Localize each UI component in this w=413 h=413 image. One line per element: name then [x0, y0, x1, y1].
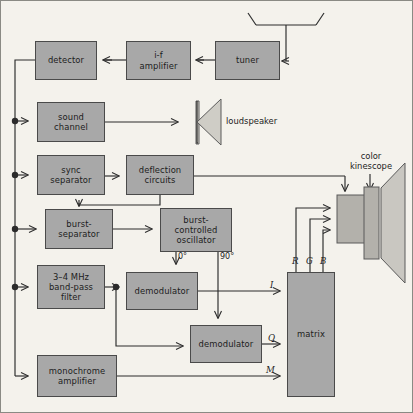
label-phase-90: 90°: [220, 252, 234, 261]
loudspeaker-cone-icon: [196, 99, 221, 145]
block-diagram-canvas: detector i-f amplifier tuner sound chann…: [0, 0, 413, 413]
block-sync-separator[interactable]: sync separator: [37, 155, 105, 195]
block-deflection-circuits[interactable]: deflection circuits: [126, 155, 194, 195]
label-signal-b: B: [320, 256, 326, 266]
label-phase-0: 0°: [178, 252, 187, 261]
block-detector[interactable]: detector: [35, 41, 97, 80]
label-loudspeaker: loudspeaker: [226, 116, 300, 126]
crt-kinescope-icon: [337, 163, 405, 283]
block-monochrome-amplifier[interactable]: monochrome amplifier: [37, 355, 117, 397]
block-matrix[interactable]: matrix: [287, 272, 335, 397]
block-demodulator-i[interactable]: demodulator: [126, 272, 198, 310]
block-demodulator-q[interactable]: demodulator: [190, 325, 262, 363]
block-burst-controlled-oscillator[interactable]: burst- controlled oscillator: [160, 208, 232, 252]
block-if-amplifier[interactable]: i-f amplifier: [126, 41, 191, 80]
block-band-pass-filter[interactable]: 3–4 MHz band-pass filter: [37, 265, 105, 309]
label-signal-q: Q: [268, 333, 275, 343]
block-burst-separator[interactable]: burst- separator: [45, 209, 113, 249]
label-color-kinescope: color kinescope: [337, 151, 405, 171]
label-signal-r: R: [292, 256, 298, 266]
block-sound-channel[interactable]: sound channel: [37, 102, 105, 142]
label-signal-i: I: [270, 280, 273, 290]
block-tuner[interactable]: tuner: [215, 41, 280, 80]
label-signal-m: M: [266, 365, 275, 375]
label-signal-g: G: [306, 256, 313, 266]
